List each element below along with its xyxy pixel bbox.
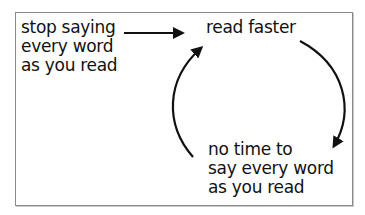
arrows-layer (0, 0, 365, 215)
arrow-curved-down-icon (300, 41, 345, 146)
arrow-curved-up-icon (173, 48, 201, 157)
